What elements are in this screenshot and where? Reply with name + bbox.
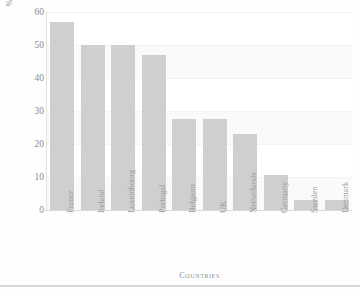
x-tick-label: Sweden bbox=[310, 186, 319, 213]
bottom-divider bbox=[0, 285, 360, 287]
y-axis-title: % Exceeding Agreed Credit Terms bbox=[2, 0, 18, 34]
bar-chart-figure: % Exceeding Agreed Credit Terms 01020304… bbox=[0, 0, 360, 292]
y-tick-label: 50 bbox=[22, 40, 44, 50]
y-tick-label: 20 bbox=[22, 139, 44, 149]
y-axis-tick-labels: 0102030405060 bbox=[22, 0, 44, 292]
bar bbox=[50, 22, 74, 210]
plot-area bbox=[47, 12, 352, 210]
y-tick-label: 10 bbox=[22, 172, 44, 182]
x-tick-label: Portugal bbox=[158, 185, 167, 213]
bars-layer bbox=[47, 12, 352, 210]
y-tick-label: 40 bbox=[22, 73, 44, 83]
x-tick-label: Belgium bbox=[188, 184, 197, 213]
x-tick-label: Luxembourg bbox=[127, 170, 136, 213]
x-tick-label: France bbox=[66, 190, 75, 213]
x-tick-label: Ireland bbox=[97, 189, 106, 213]
y-axis-line bbox=[46, 12, 47, 211]
y-tick-label: 30 bbox=[22, 106, 44, 116]
bar bbox=[81, 45, 105, 210]
y-tick-label: 60 bbox=[22, 7, 44, 17]
x-axis-title: Countries bbox=[47, 271, 352, 280]
x-tick-label: UK bbox=[219, 201, 228, 213]
x-tick-label: Netherlands bbox=[249, 173, 258, 213]
x-axis-tick-labels: FranceIrelandLuxembourgPortugalBelgiumUK… bbox=[47, 213, 352, 273]
bar bbox=[203, 119, 227, 210]
x-tick-label: Denmark bbox=[341, 182, 350, 213]
x-tick-label: Germany bbox=[280, 182, 289, 213]
